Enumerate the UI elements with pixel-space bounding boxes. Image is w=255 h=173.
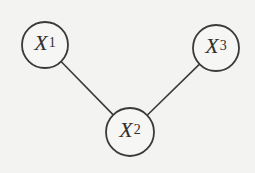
edge-x2-x3 [147, 64, 199, 115]
graph-canvas [0, 0, 255, 173]
edge-x1-x2 [61, 61, 113, 114]
node-x2-circle [106, 108, 154, 156]
node-x1-circle [22, 22, 68, 68]
node-x3-circle [193, 25, 239, 71]
graph-diagram: X1 X2 X3 [0, 0, 255, 173]
